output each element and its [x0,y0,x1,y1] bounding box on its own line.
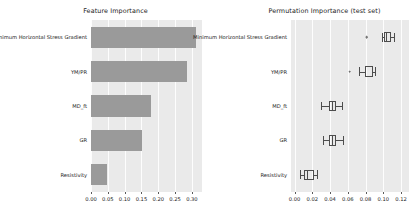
boxplot-outlier-0-0 [366,36,369,39]
boxplot-cap-high-3 [343,136,344,145]
y-tick-label-right-1: YM/PR [87,69,287,75]
boxplot-cap-high-2 [342,102,343,111]
boxplot-cap-low-3 [323,136,324,145]
x-tick-mark-left-3 [141,192,142,194]
gridline-vertical [295,20,296,192]
boxplot-box-4 [304,170,313,180]
panel-feature-importance: Feature Importance Minimum Horizontal St… [0,0,207,220]
x-tick-label-right-3: 0.06 [342,196,354,202]
boxplot-cap-high-0 [394,33,395,42]
y-tick-label-left-2: MD_ft [0,103,87,109]
x-tick-label-left-1: 0.05 [102,196,114,202]
gridline-vertical [401,20,402,192]
x-tick-mark-right-6 [401,192,402,194]
x-tick-label-left-3: 0.15 [136,196,148,202]
y-tick-label-right-2: MD_ft [87,103,287,109]
gridline-vertical [312,20,313,192]
boxplot-median-3 [332,135,333,145]
y-tick-label-left-0: Minimum Horizontal Stress Gradient [0,34,87,40]
x-tick-mark-right-0 [295,192,296,194]
x-tick-label-left-0: 0.00 [85,196,97,202]
boxplot-cap-low-2 [321,102,322,111]
boxplot-median-1 [365,66,366,76]
panel-permutation-importance: Permutation Importance (test set) Minimu… [208,0,415,220]
x-tick-mark-right-2 [330,192,331,194]
x-tick-label-left-4: 0.20 [152,196,164,202]
x-tick-mark-left-6 [192,192,193,194]
y-tick-label-right-0: Minimum Horizontal Stress Gradient [87,34,287,40]
figure-canvas: Feature Importance Minimum Horizontal St… [0,0,415,220]
boxplot-box-0 [384,32,392,42]
plot-area-permutation-importance [291,20,409,192]
x-tick-label-right-2: 0.04 [324,196,336,202]
x-tick-mark-right-5 [383,192,384,194]
y-tick-label-left-1: YM/PR [0,69,87,75]
x-tick-mark-left-4 [158,192,159,194]
y-tick-label-left-3: GR [0,137,87,143]
boxplot-outlier-1-0 [348,70,351,73]
x-tick-label-left-2: 0.10 [119,196,131,202]
y-tick-label-right-3: GR [87,137,287,143]
chart-title-feature-importance: Feature Importance [30,7,201,15]
gridline-vertical [348,20,349,192]
boxplot-cap-low-0 [382,33,383,42]
boxplot-whisker-low-2 [321,106,329,107]
boxplot-cap-low-1 [359,67,360,76]
boxplot-median-0 [386,32,387,42]
x-tick-label-right-6: 0.12 [395,196,407,202]
x-tick-mark-left-0 [91,192,92,194]
x-tick-mark-right-3 [348,192,349,194]
x-tick-label-right-1: 0.02 [307,196,319,202]
y-tick-label-left-4: Resistivity [0,172,87,178]
boxplot-median-4 [307,170,308,180]
x-tick-mark-left-5 [175,192,176,194]
x-tick-mark-right-1 [312,192,313,194]
boxplot-cap-low-4 [300,170,301,179]
gridline-vertical [366,20,367,192]
y-tick-label-right-4: Resistivity [87,172,287,178]
boxplot-median-2 [332,101,333,111]
boxplot-cap-high-4 [317,170,318,179]
x-tick-label-right-5: 0.10 [377,196,389,202]
x-tick-label-right-4: 0.08 [360,196,372,202]
chart-title-permutation-importance: Permutation Importance (test set) [240,7,409,15]
x-tick-mark-left-1 [108,192,109,194]
x-tick-label-right-0: 0.00 [289,196,301,202]
x-tick-mark-right-4 [366,192,367,194]
x-tick-mark-left-2 [125,192,126,194]
x-tick-label-left-5: 0.25 [169,196,181,202]
gridline-vertical [383,20,384,192]
boxplot-whisker-high-3 [336,140,343,141]
boxplot-cap-high-1 [375,67,376,76]
x-tick-label-left-6: 0.30 [186,196,198,202]
